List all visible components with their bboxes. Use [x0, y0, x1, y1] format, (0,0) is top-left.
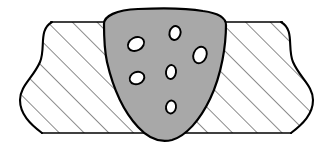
weld-cross-section-diagram: [0, 0, 330, 146]
weld-diagram-canvas: [0, 0, 330, 146]
